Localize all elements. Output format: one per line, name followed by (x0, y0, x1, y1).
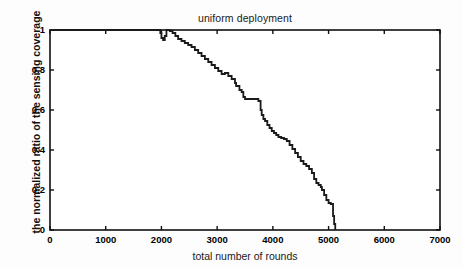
plot-background (50, 30, 440, 230)
chart-figure: uniform deployment the normalized ratio … (0, 0, 463, 269)
y-tick-label: 0.4 (32, 144, 46, 155)
x-tick-label: 6000 (374, 234, 395, 245)
y-tick-label: 0.8 (32, 64, 45, 75)
y-tick-label: 0.6 (32, 104, 45, 115)
x-tick-label: 4000 (262, 234, 283, 245)
x-tick-label: 7000 (429, 234, 450, 245)
x-tick-label: 0 (47, 234, 52, 245)
x-tick-label: 1000 (95, 234, 116, 245)
y-tick-label: 0.2 (32, 184, 45, 195)
x-tick-label: 2000 (151, 234, 172, 245)
x-tick-label: 5000 (318, 234, 339, 245)
y-tick-label: 0 (40, 224, 45, 235)
axes-frame (50, 30, 440, 230)
plot-area: 01000200030004000500060007000 00.20.40.6… (0, 0, 463, 269)
x-tick-label: 3000 (207, 234, 228, 245)
y-tick-label: 1 (40, 24, 46, 35)
